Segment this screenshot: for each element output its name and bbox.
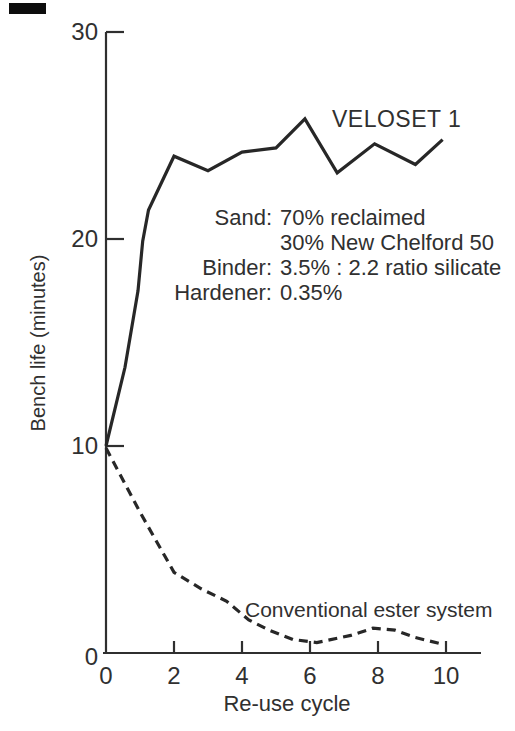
annotation-label: Hardener: xyxy=(100,280,272,305)
y-tick-label-10: 10 xyxy=(46,433,98,459)
y-axis-title: Bench life (minutes) xyxy=(27,255,50,432)
annotation-value: 0.35% xyxy=(280,280,342,305)
annotation-row-sand2: 30% New Chelford 50 xyxy=(100,230,501,255)
x-axis-title: Re-use cycle xyxy=(187,691,387,717)
x-tick-label-0: 0 xyxy=(84,664,128,688)
x-tick-label-10: 10 xyxy=(424,664,468,688)
annotation-value: 30% New Chelford 50 xyxy=(280,230,494,255)
x-tick-label-8: 8 xyxy=(356,664,400,688)
series-label-veloset: VELOSET 1 xyxy=(332,106,461,133)
annotation-value: 70% reclaimed xyxy=(280,205,426,230)
y-tick-label-20: 20 xyxy=(46,226,98,252)
annotation-row-sand: Sand: 70% reclaimed xyxy=(100,205,501,230)
series-label-conventional: Conventional ester system xyxy=(245,598,492,622)
annotation-label xyxy=(100,230,272,255)
annotation-label: Binder: xyxy=(100,255,272,280)
recipe-annotation: Sand: 70% reclaimed 30% New Chelford 50 … xyxy=(100,205,501,305)
annotation-value: 3.5% : 2.2 ratio silicate xyxy=(280,255,501,280)
x-tick-label-2: 2 xyxy=(152,664,196,688)
annotation-row-binder: Binder: 3.5% : 2.2 ratio silicate xyxy=(100,255,501,280)
y-tick-label-30: 30 xyxy=(46,19,98,45)
annotation-label: Sand: xyxy=(100,205,272,230)
figure-bench-life-chart: 30 20 10 0 0 2 4 6 8 10 Bench life (minu… xyxy=(0,0,515,731)
x-tick-label-4: 4 xyxy=(220,664,264,688)
x-tick-label-6: 6 xyxy=(288,664,332,688)
annotation-row-hardener: Hardener: 0.35% xyxy=(100,280,501,305)
